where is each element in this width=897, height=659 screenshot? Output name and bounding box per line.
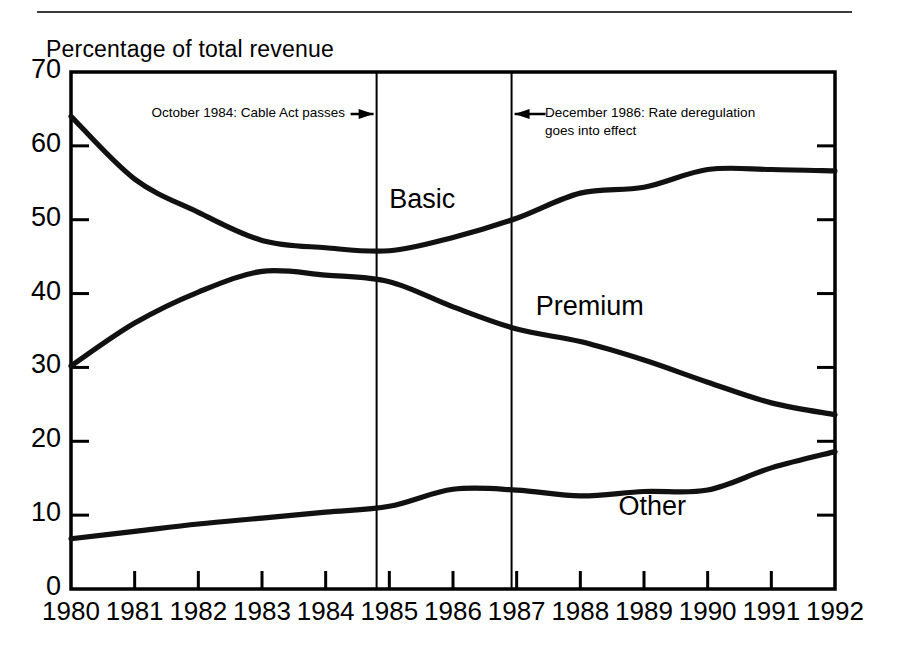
- right-arrow-icon-head: [359, 109, 374, 119]
- series-label-basic: Basic: [389, 184, 455, 215]
- series-label-other: Other: [619, 491, 687, 522]
- y-tick-label: 10: [5, 497, 61, 528]
- series-line-other: [71, 452, 835, 539]
- annotation-arrows: [351, 109, 546, 119]
- y-tick-label: 50: [5, 202, 61, 233]
- x-tick-label: 1992: [790, 596, 880, 627]
- y-tick-label: 20: [5, 423, 61, 454]
- annotation-rate-deregulation: December 1986: Rate deregulation goes in…: [545, 104, 835, 140]
- y-tick-label: 70: [5, 54, 61, 85]
- y-tick-label: 60: [5, 128, 61, 159]
- data-series-lines: [71, 116, 835, 538]
- y-tick-label: 40: [5, 276, 61, 307]
- plot-frame: [71, 72, 835, 589]
- figure-container: Percentage of total revenue 010203040506…: [0, 0, 897, 659]
- series-label-premium: Premium: [536, 291, 644, 322]
- annotation-cable-act: October 1984: Cable Act passes: [90, 104, 345, 122]
- series-line-premium: [71, 271, 835, 415]
- event-reference-lines: [377, 72, 512, 589]
- y-tick-label: 30: [5, 349, 61, 380]
- x-axis-ticks: [135, 571, 772, 589]
- chart-plot-area: [0, 0, 897, 659]
- left-arrow-icon-head: [515, 109, 530, 119]
